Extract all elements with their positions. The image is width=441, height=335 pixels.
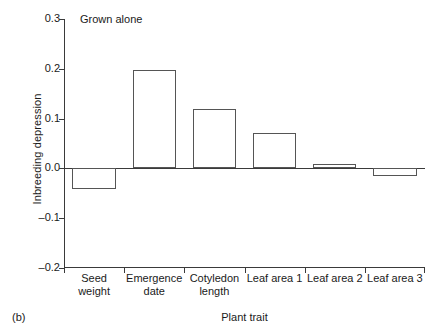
x-axis-tick-label-line: Leaf area 1 [241,272,309,285]
bar-leaf-area-1 [253,133,296,169]
y-axis-tick-label: –0.2 [26,262,60,273]
x-axis-title: Plant trait [64,311,425,323]
x-axis-tick-label: Leaf area 3 [361,272,429,285]
x-axis-tick-label-line: Leaf area 3 [361,272,429,285]
x-axis-tick-label-line: Cotyledon [180,272,248,285]
bar-leaf-area-3 [373,168,416,175]
x-axis-tick-label: Leaf area 2 [301,272,369,285]
y-axis-tick-mark [59,19,64,20]
y-axis-line [64,19,65,268]
x-axis-tick-label-line: Emergence [120,272,188,285]
panel-caption: (b) [12,311,25,323]
x-axis-tick-label-line: date [120,285,188,298]
x-axis-tick-labels: SeedweightEmergencedateCotyledonlengthLe… [64,272,425,312]
bar-cotyledon-length [193,109,236,169]
y-axis-tick-label: 0.2 [26,63,60,74]
x-axis-tick-label: Seedweight [60,272,128,298]
x-axis-tick-label-line: length [180,285,248,298]
bar-seed-weight [72,168,115,189]
x-axis-tick-label: Cotyledonlength [180,272,248,298]
bar-emergence-date [133,70,176,168]
y-axis-tick-labels: 0.30.20.10.0–0.1–0.2 [24,0,60,335]
x-axis-tick-label: Emergencedate [120,272,188,298]
plot-annotation-grown-alone: Grown alone [80,13,142,25]
y-axis-tick-mark [59,218,64,219]
y-axis-tick-label: 0.3 [26,13,60,24]
y-axis-tick-label: 0.1 [26,113,60,124]
y-axis-tick-label: –0.1 [26,212,60,223]
y-axis-tick-label: 0.0 [26,162,60,173]
y-axis-tick-mark [59,69,64,70]
figure-panel-b: Inbreeding depression 0.30.20.10.0–0.1–0… [0,0,441,335]
x-axis-tick-label-line: Leaf area 2 [301,272,369,285]
zero-baseline [64,168,425,169]
x-axis-tick-label-line: weight [60,285,128,298]
y-axis-tick-mark [59,168,64,169]
plot-area [64,19,425,268]
x-axis-tick-label: Leaf area 1 [241,272,309,285]
y-axis-tick-mark [59,119,64,120]
x-axis-tick-label-line: Seed [60,272,128,285]
bar-leaf-area-2 [313,164,356,168]
